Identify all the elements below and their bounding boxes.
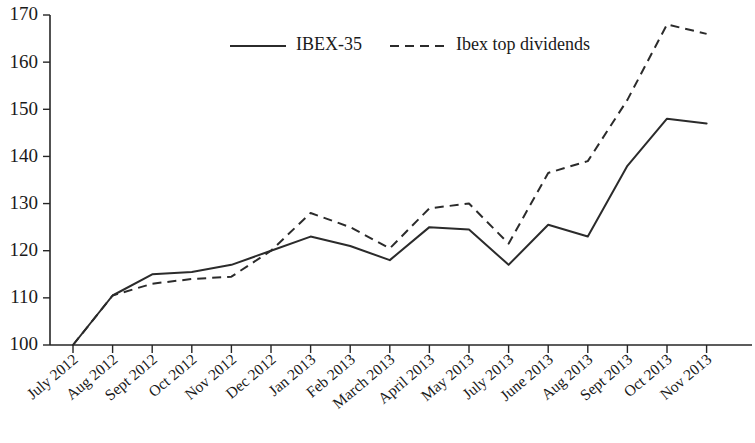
y-tick-label: 110 (10, 286, 38, 307)
x-tick-group (73, 345, 707, 353)
y-tick-label: 120 (10, 239, 39, 260)
y-tick-group (43, 15, 50, 345)
series-line-solid (73, 119, 707, 345)
y-tick-label-group: 100110120130140150160170 (10, 3, 39, 354)
series-group (73, 24, 707, 345)
y-tick-label: 100 (10, 333, 39, 354)
x-tick-label-group: July 2012Aug 2012Sept 2012Oct 2012Nov 20… (23, 350, 714, 412)
y-axis: 100110120130140150160170 (10, 3, 51, 354)
y-tick-label: 140 (10, 145, 39, 166)
chart-legend: IBEX-35Ibex top dividends (230, 34, 590, 54)
chart-canvas: 100110120130140150160170 July 2012Aug 20… (0, 0, 755, 443)
series-line-dashed (73, 24, 707, 345)
y-tick-label: 160 (10, 51, 39, 72)
line-chart: 100110120130140150160170 July 2012Aug 20… (0, 0, 755, 443)
y-tick-label: 170 (10, 3, 39, 24)
legend-label: Ibex top dividends (456, 34, 590, 54)
y-tick-label: 150 (10, 98, 39, 119)
y-tick-label: 130 (10, 192, 39, 213)
x-axis: July 2012Aug 2012Sept 2012Oct 2012Nov 20… (23, 345, 752, 412)
legend-label: IBEX-35 (296, 34, 362, 54)
